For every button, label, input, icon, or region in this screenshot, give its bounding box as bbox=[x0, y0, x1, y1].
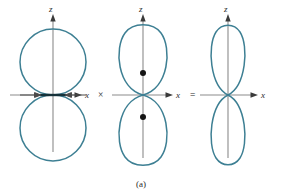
figure-canvas: z x × bbox=[0, 0, 286, 196]
right-z-axis-label: z bbox=[223, 4, 228, 14]
orbital-product-figure: z x × bbox=[0, 0, 286, 196]
left-z-axis bbox=[50, 14, 55, 152]
middle-node-dot-lower bbox=[140, 114, 146, 120]
middle-node-dot-upper bbox=[140, 70, 146, 76]
operator-equals: = bbox=[190, 90, 195, 100]
left-inward-arrow-left bbox=[20, 93, 41, 98]
panel-left: z x bbox=[10, 4, 89, 161]
operator-multiply: × bbox=[98, 90, 103, 100]
figure-caption: (a) bbox=[136, 179, 146, 189]
middle-z-axis-label: z bbox=[138, 4, 143, 14]
middle-x-axis-label: x bbox=[175, 90, 180, 100]
panel-right: z x bbox=[200, 4, 265, 165]
middle-z-axis bbox=[140, 14, 145, 158]
panel-middle: z x bbox=[112, 4, 180, 165]
left-z-axis-label: z bbox=[48, 4, 53, 14]
right-x-axis-label: x bbox=[260, 90, 265, 100]
right-z-axis bbox=[225, 14, 230, 158]
